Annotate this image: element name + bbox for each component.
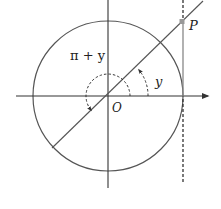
label-point-p: P (188, 18, 198, 33)
unit-circle-diagram: P O y π + y (0, 0, 221, 209)
label-origin: O (112, 101, 122, 115)
label-angle-y: y (154, 74, 163, 89)
angle-y-arc (139, 70, 148, 96)
point-p-marker (180, 19, 185, 24)
label-angle-pi-plus-y: π + y (70, 48, 106, 63)
